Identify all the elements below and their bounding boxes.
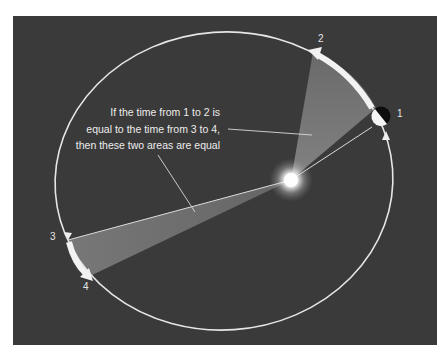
planet-icon bbox=[371, 107, 390, 127]
position-label-2: 2 bbox=[318, 34, 324, 44]
caption-line-2: equal to the time from 3 to 4, bbox=[76, 121, 220, 138]
caption-line-3: then these two areas are equal bbox=[76, 137, 220, 154]
orbit-ellipse bbox=[45, 21, 403, 342]
swept-area-near bbox=[291, 52, 376, 180]
kepler-diagram bbox=[0, 0, 447, 358]
position-label-1: 1 bbox=[397, 109, 403, 119]
caption-line-1: If the time from 1 to 2 is bbox=[76, 104, 220, 121]
orbit-arrow-right bbox=[382, 131, 390, 140]
pointer-line-far bbox=[158, 155, 195, 212]
position-label-3: 3 bbox=[50, 232, 56, 242]
caption: If the time from 1 to 2 is equal to the … bbox=[76, 104, 220, 154]
position-label-4: 4 bbox=[83, 282, 89, 292]
sun-icon bbox=[284, 173, 298, 187]
swept-area-far bbox=[68, 180, 291, 276]
